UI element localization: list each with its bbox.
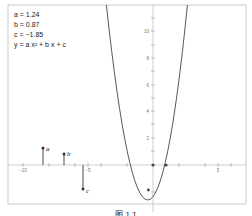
stem-b-label: b [67,150,71,158]
stem-c-dot [82,188,85,191]
x-tick-label: −5 [85,168,91,173]
param-c: c = −1.85 [14,31,43,38]
y-tick-label: 10 [144,29,150,34]
param-b: b = 0.87 [14,21,40,28]
figure-caption: 图 1.1 [0,208,252,216]
origin-point [151,163,154,166]
x-tick-label: −10 [19,168,27,173]
stem-a-dot [42,147,45,150]
plot-frame [8,5,246,204]
param-a: a = 1.24 [14,11,40,18]
root-point [164,163,167,166]
vertex-point [147,189,150,192]
equation: y = a x² + b x + c [14,41,66,48]
stem-b-dot [63,153,66,156]
stem-a-label: a [46,145,50,153]
